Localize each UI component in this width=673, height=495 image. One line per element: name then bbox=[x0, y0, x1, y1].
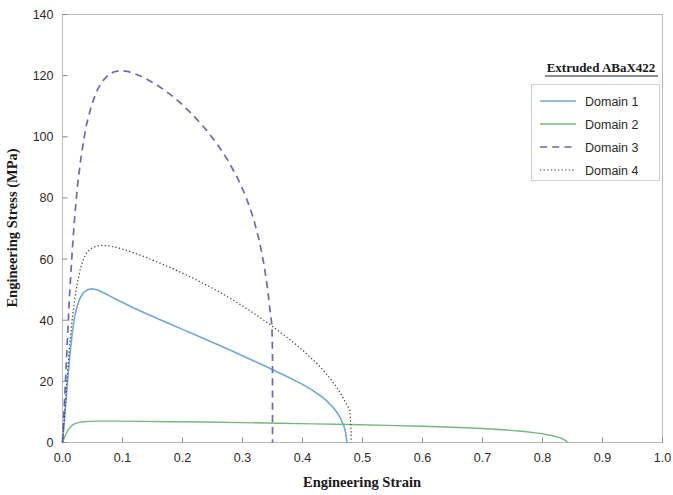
y-axis-tick-labels: 020406080100120140 bbox=[33, 8, 54, 450]
legend-entry-2[interactable]: Domain 2 bbox=[540, 118, 639, 132]
series-line-4 bbox=[63, 245, 352, 442]
legend-title: Extruded ABaX422 bbox=[547, 60, 656, 75]
legend-label-2: Domain 2 bbox=[585, 118, 639, 132]
legend-entry-3[interactable]: Domain 3 bbox=[540, 141, 639, 155]
series-line-2 bbox=[63, 421, 568, 442]
series-line-3 bbox=[63, 70, 273, 442]
y-tick-label: 80 bbox=[40, 191, 54, 205]
x-axis-tick-labels: 0.00.10.20.30.40.50.60.70.80.91.0 bbox=[54, 451, 671, 465]
x-tick-label: 0.7 bbox=[474, 451, 491, 465]
y-tick-label: 40 bbox=[40, 314, 54, 328]
x-axis-title: Engineering Strain bbox=[303, 474, 421, 490]
y-tick-label: 20 bbox=[40, 375, 54, 389]
stress-strain-plot: 0.00.10.20.30.40.50.60.70.80.91.0 020406… bbox=[0, 0, 673, 495]
x-axis-ticks bbox=[63, 438, 663, 443]
x-tick-label: 0.1 bbox=[114, 451, 131, 465]
legend-entry-4[interactable]: Domain 4 bbox=[540, 164, 639, 178]
x-tick-label: 0.9 bbox=[594, 451, 611, 465]
y-tick-label: 100 bbox=[33, 130, 54, 144]
y-tick-label: 140 bbox=[33, 8, 54, 22]
x-tick-label: 0.0 bbox=[54, 451, 71, 465]
data-series-group bbox=[63, 70, 568, 442]
x-tick-label: 0.6 bbox=[414, 451, 431, 465]
y-tick-label: 120 bbox=[33, 69, 54, 83]
x-tick-label: 0.4 bbox=[294, 451, 311, 465]
x-tick-label: 0.2 bbox=[174, 451, 191, 465]
legend: Extruded ABaX422 Domain 1Domain 2Domain … bbox=[532, 60, 660, 181]
x-tick-label: 0.8 bbox=[534, 451, 551, 465]
x-tick-label: 0.3 bbox=[234, 451, 251, 465]
y-tick-label: 60 bbox=[40, 253, 54, 267]
legend-label-3: Domain 3 bbox=[585, 141, 639, 155]
chart-figure: 0.00.10.20.30.40.50.60.70.80.91.0 020406… bbox=[0, 0, 673, 495]
y-tick-label: 0 bbox=[47, 436, 54, 450]
legend-entries: Domain 1Domain 2Domain 3Domain 4 bbox=[540, 95, 639, 178]
series-line-1 bbox=[63, 289, 347, 443]
y-axis-title: Engineering Stress (MPa) bbox=[4, 148, 21, 307]
plot-frame bbox=[63, 15, 663, 443]
legend-label-4: Domain 4 bbox=[585, 164, 639, 178]
legend-label-1: Domain 1 bbox=[585, 95, 639, 109]
x-tick-label: 0.5 bbox=[354, 451, 371, 465]
legend-entry-1[interactable]: Domain 1 bbox=[540, 95, 639, 109]
x-tick-label: 1.0 bbox=[654, 451, 671, 465]
